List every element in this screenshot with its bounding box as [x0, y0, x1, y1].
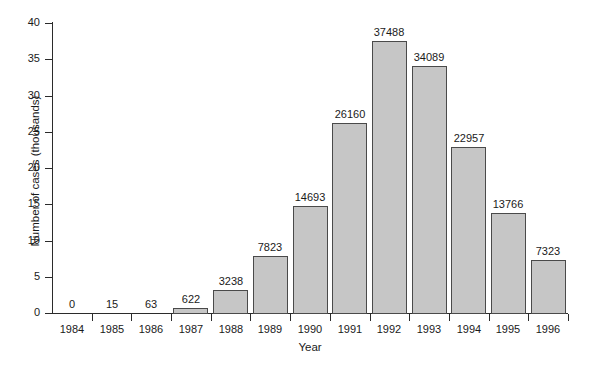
- bar: [451, 147, 486, 314]
- x-axis-tick: [489, 314, 490, 321]
- y-axis-line: [52, 22, 53, 314]
- bar-value-label: 26160: [320, 108, 380, 120]
- bar: [491, 213, 526, 314]
- y-axis-tick: [45, 132, 52, 133]
- y-axis-tick: [45, 23, 52, 24]
- bar: [332, 123, 367, 314]
- y-axis-tick-label: 15: [0, 198, 40, 209]
- bar-value-label: 622: [161, 293, 221, 305]
- y-axis-tick-label: 40: [0, 17, 40, 28]
- y-axis-tick-label: 25: [0, 126, 40, 137]
- x-axis-tick-label: 1996: [518, 323, 578, 335]
- y-axis-tick: [45, 96, 52, 97]
- bar-value-label: 13766: [478, 198, 538, 210]
- x-axis-tick: [211, 314, 212, 321]
- x-axis-title: Year: [52, 341, 568, 353]
- y-axis-tick-label: 30: [0, 90, 40, 101]
- bar-value-label: 3238: [201, 275, 261, 287]
- bar-value-label: 14693: [280, 191, 340, 203]
- bar-chart: Number of cases (thousands) 051015202530…: [0, 0, 590, 366]
- bar-value-label: 7323: [518, 245, 578, 257]
- y-axis-tick-label: 35: [0, 53, 40, 64]
- y-axis-tick-label: 5: [0, 271, 40, 282]
- bar-value-label: 22957: [439, 132, 499, 144]
- y-axis-tick: [45, 59, 52, 60]
- x-axis-tick: [568, 314, 569, 321]
- y-axis-tick: [45, 168, 52, 169]
- x-axis-tick: [92, 314, 93, 321]
- x-axis-tick: [330, 314, 331, 321]
- x-axis-tick: [449, 314, 450, 321]
- x-axis-tick: [171, 314, 172, 321]
- bar-value-label: 7823: [240, 241, 300, 253]
- y-axis-tick: [45, 277, 52, 278]
- y-axis-tick: [45, 313, 52, 314]
- x-axis-tick: [131, 314, 132, 321]
- bar-value-label: 34089: [399, 51, 459, 63]
- x-axis-tick: [528, 314, 529, 321]
- bar: [372, 41, 407, 314]
- bar: [293, 206, 328, 314]
- y-axis-tick-label: 0: [0, 307, 40, 318]
- bar-value-label: 37488: [359, 26, 419, 38]
- y-axis-tick-label: 20: [0, 162, 40, 173]
- y-axis-tick: [45, 241, 52, 242]
- y-axis-tick-label: 10: [0, 235, 40, 246]
- x-axis-tick: [290, 314, 291, 321]
- x-axis-tick: [370, 314, 371, 321]
- x-axis-tick: [409, 314, 410, 321]
- bar: [531, 260, 566, 314]
- y-axis-tick: [45, 204, 52, 205]
- bar: [412, 66, 447, 314]
- x-axis-tick: [250, 314, 251, 321]
